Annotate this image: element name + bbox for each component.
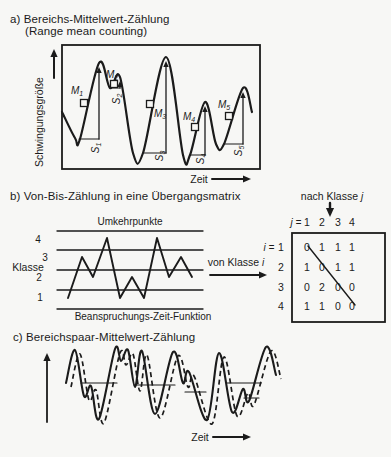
class-label: 2: [36, 272, 42, 283]
panel-b-bottom-label: Beanspruchungs-Zeit-Funktion: [75, 311, 212, 322]
matrix-col-header: 3: [335, 216, 341, 228]
matrix-cell: 0: [335, 300, 341, 312]
mean-label: M3: [154, 103, 166, 121]
mean-label: M1: [71, 80, 83, 98]
matrix-row-header: 4: [278, 300, 284, 312]
matrix-cell: 0: [349, 281, 355, 293]
panel-b-title: b) Von-Bis-Zählung in eine Übergangsmatr…: [10, 190, 240, 202]
matrix-col-header: 2: [319, 216, 325, 228]
panel-a-title: a) Bereichs-Mittelwert-Zählung: [10, 13, 170, 25]
panel-c-x-axis-label: Zeit: [191, 431, 209, 443]
von-klasse-label: von Klasse i: [208, 256, 265, 268]
matrix-row-header: 1: [278, 241, 284, 253]
matrix-cell: 2: [319, 281, 325, 293]
matrix-cell: 1: [335, 241, 341, 253]
panel-a-x-axis-label: Zeit: [190, 173, 208, 185]
range-label: S2: [106, 94, 124, 105]
nach-klasse-label: nach Klasse j: [301, 190, 363, 202]
matrix-cell: 0: [304, 241, 310, 253]
class-label: 4: [35, 234, 41, 245]
panel-b-top-label: Umkehrpunkte: [97, 216, 162, 227]
matrix-row-header: 2: [278, 261, 284, 273]
matrix-col-prefix: j =: [291, 217, 302, 228]
mean-label: M5: [218, 94, 230, 112]
mean-label: M4: [183, 106, 195, 124]
panel-a-y-axis-label: Schwingungsgröße: [33, 77, 45, 167]
range-label: S1: [85, 143, 103, 154]
panel-a-subtitle: (Range mean counting): [25, 25, 147, 37]
matrix-cell: 1: [349, 261, 355, 273]
matrix-cell: 0: [349, 300, 355, 312]
matrix-col-header: 1: [304, 216, 310, 228]
range-label: S4: [190, 154, 208, 165]
range-label: S5: [228, 146, 246, 157]
matrix-cell: 0: [319, 261, 325, 273]
matrix-cell: 0: [304, 281, 310, 293]
class-label: 3: [42, 252, 48, 263]
matrix-cell: 1: [304, 300, 310, 312]
matrix-row-prefix: i =: [264, 242, 275, 253]
range-label: S3: [149, 151, 167, 162]
matrix-cell: 1: [349, 241, 355, 253]
matrix-cell: 1: [319, 300, 325, 312]
mean-label: M2: [106, 64, 118, 82]
matrix-cell: 1: [304, 261, 310, 273]
matrix-cell: 1: [319, 241, 325, 253]
matrix-cell: 1: [335, 261, 341, 273]
class-label: 1: [37, 292, 43, 303]
figure-labels: a) Bereichs-Mittelwert-Zählung (Range me…: [0, 0, 391, 457]
panel-c-title: c) Bereichspaar-Mittelwert-Zählung: [13, 331, 195, 343]
matrix-col-header: 4: [349, 216, 355, 228]
figure-counting-methods: a) Bereichs-Mittelwert-Zählung (Range me…: [0, 0, 391, 457]
matrix-cell: 0: [335, 281, 341, 293]
matrix-row-header: 3: [278, 281, 284, 293]
